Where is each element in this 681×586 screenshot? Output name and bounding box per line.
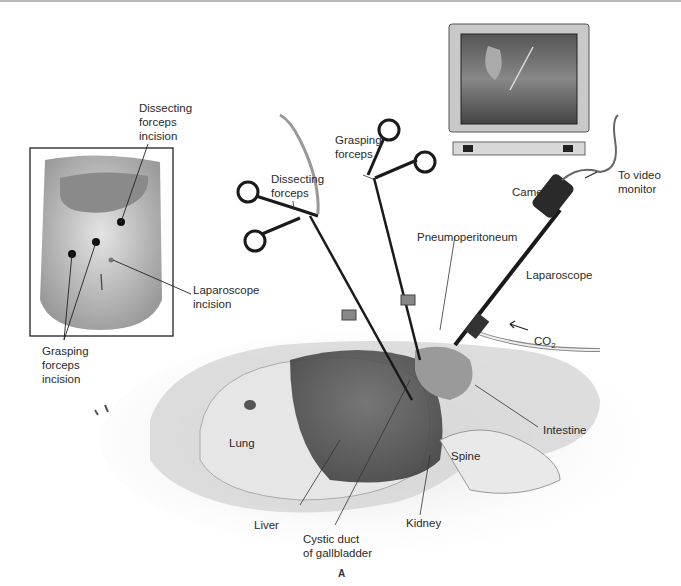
- label-co2: CO2: [534, 334, 556, 353]
- label-pneumoperitoneum: Pneumoperitoneum: [417, 230, 517, 244]
- laparoscope-incision-mark: [109, 258, 114, 263]
- label-lung: Lung: [229, 436, 255, 450]
- label-grasping-forceps: Grasping forceps: [335, 133, 382, 161]
- co2-text: CO: [534, 335, 551, 347]
- patient-body: [95, 330, 660, 550]
- label-laparoscope: Laparoscope: [526, 268, 593, 282]
- label-liver: Liver: [254, 518, 279, 532]
- label-kidney: Kidney: [406, 516, 441, 530]
- label-cystic-duct: Cystic duct of gallbladder: [303, 532, 372, 560]
- label-camera: Camera: [512, 185, 553, 199]
- label-to-video-monitor: To video monitor: [618, 168, 661, 196]
- label-laparoscope-incision: Laparoscope incision: [193, 283, 260, 311]
- video-monitor: [449, 24, 589, 155]
- label-dissecting-forceps-incision: Dissecting forceps incision: [139, 101, 192, 143]
- illustration: [0, 0, 681, 586]
- co2-subscript: 2: [551, 341, 555, 350]
- label-dissecting-forceps: Dissecting forceps: [271, 172, 324, 200]
- label-intestine: Intestine: [543, 423, 586, 437]
- label-spine: Spine: [451, 449, 480, 463]
- inset-torso: [30, 148, 173, 336]
- figure-caption-letter: A: [338, 568, 345, 579]
- label-grasping-forceps-incision: Grasping forceps incision: [42, 344, 89, 386]
